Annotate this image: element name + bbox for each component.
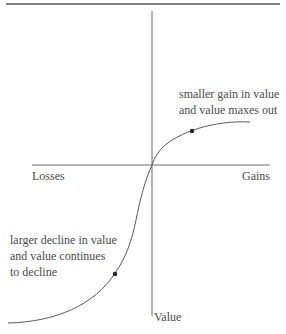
loss-point-dot bbox=[113, 272, 118, 277]
losses-label: Losses bbox=[32, 169, 65, 184]
diagram-canvas bbox=[0, 0, 286, 334]
value-axis-label: Value bbox=[154, 310, 181, 325]
loss-annotation-line-2: and value continues bbox=[10, 249, 105, 264]
gain-annotation-line-1: smaller gain in value bbox=[179, 87, 279, 102]
value-curve bbox=[8, 122, 250, 323]
loss-annotation-line-1: larger decline in value bbox=[10, 233, 117, 248]
gain-annotation-line-2: and value maxes out bbox=[179, 103, 277, 118]
loss-annotation-line-3: to decline bbox=[10, 265, 57, 280]
gains-label: Gains bbox=[242, 169, 270, 184]
gain-point-dot bbox=[190, 129, 195, 134]
